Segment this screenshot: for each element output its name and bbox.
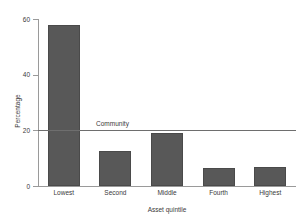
y-axis-tick-label: 40: [23, 72, 30, 79]
y-axis-tick: 0: [33, 186, 38, 187]
y-axis-tick-label: 60: [23, 16, 30, 23]
bar: [151, 133, 183, 186]
y-axis-title: Percentage: [15, 94, 22, 127]
x-axis-tick-label: Highest: [244, 190, 296, 197]
community-reference-label: Community: [96, 121, 129, 128]
plot-area: [38, 19, 296, 186]
x-axis-tick-label: Second: [90, 190, 142, 197]
bar: [48, 25, 80, 186]
x-axis-title: Asset quintile: [38, 207, 296, 214]
x-axis-tick-label: Fourth: [193, 190, 245, 197]
bar: [99, 151, 131, 186]
community-reference-line: [38, 130, 296, 131]
bar-chart-figure: Percentage 0204060 Community LowestSecon…: [0, 0, 305, 222]
bar: [203, 168, 235, 186]
x-axis-tick-label: Lowest: [38, 190, 90, 197]
bar: [254, 167, 286, 186]
y-axis-tick-label: 0: [26, 183, 30, 190]
x-axis-line: [38, 186, 296, 187]
x-axis-tick-label: Middle: [141, 190, 193, 197]
y-axis-tick-label: 20: [23, 128, 30, 135]
